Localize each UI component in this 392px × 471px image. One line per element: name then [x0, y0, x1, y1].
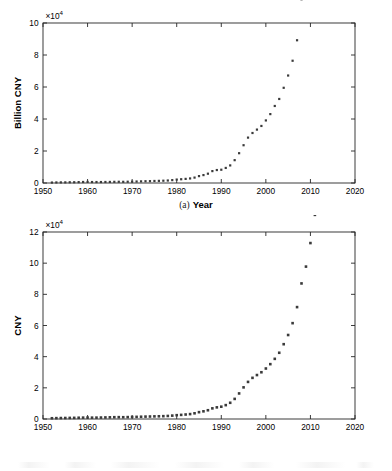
data-point [287, 334, 290, 337]
data-point [256, 374, 259, 377]
y-tick-label: 2 [34, 383, 39, 393]
data-point [229, 164, 231, 166]
data-point [314, 215, 317, 216]
data-point [251, 377, 254, 380]
data-point [256, 129, 258, 131]
data-point [296, 306, 299, 309]
data-point [158, 180, 160, 182]
data-point [109, 416, 112, 419]
figure-page: 195019601970198019902000201020200246810×… [0, 0, 392, 471]
data-point [282, 343, 285, 346]
y-tick-label: 6 [34, 82, 39, 92]
plot-a-wrapper: 195019601970198019902000201020200246810×… [0, 0, 392, 215]
data-point [211, 170, 213, 172]
x-tick-label: 2010 [301, 422, 320, 432]
data-point [180, 414, 183, 417]
data-point [242, 144, 244, 146]
data-point [153, 415, 156, 418]
data-point [109, 181, 111, 183]
data-point [73, 181, 75, 183]
data-point [127, 181, 129, 183]
data-point [265, 367, 268, 370]
data-point [180, 178, 182, 180]
data-point [69, 181, 71, 183]
data-point [77, 416, 80, 419]
x-tick-label: 1970 [123, 422, 142, 432]
page-bottom-artifact [18, 462, 374, 468]
data-point [238, 392, 241, 395]
y-axis-exponent-label: ×104 [46, 218, 64, 229]
plot-box [43, 23, 355, 183]
x-tick-label: 2000 [257, 422, 276, 432]
y-axis-exponent-label: ×104 [46, 9, 64, 20]
panel-a-caption: (a)Year [0, 194, 392, 212]
data-point [171, 414, 174, 417]
data-point [292, 60, 294, 62]
data-point [55, 181, 57, 183]
data-point [82, 416, 85, 419]
data-point [198, 411, 201, 414]
x-tick-label: 1990 [212, 422, 231, 432]
data-point [260, 371, 263, 374]
data-point [278, 98, 280, 100]
data-point [126, 416, 129, 419]
scatter-plot-a: 195019601970198019902000201020200246810×… [0, 0, 392, 215]
y-tick-label: 10 [29, 258, 39, 268]
y-tick-label: 0 [34, 178, 39, 188]
data-point [238, 152, 240, 154]
data-point [269, 363, 272, 366]
x-tick-label: 1980 [167, 422, 186, 432]
data-point [291, 322, 294, 325]
data-point [118, 181, 120, 183]
data-point [274, 105, 276, 107]
data-point [269, 113, 271, 115]
data-point [247, 381, 250, 384]
data-point [158, 415, 161, 418]
data-point [309, 242, 312, 245]
data-point [247, 137, 249, 139]
data-point [51, 181, 53, 183]
data-point [78, 181, 80, 183]
data-point [167, 415, 170, 418]
panel-a-caption-tag: (a) [179, 200, 190, 210]
y-tick-label: 6 [34, 321, 39, 331]
data-point [242, 386, 245, 389]
data-point [162, 415, 165, 418]
data-point [287, 74, 289, 76]
data-point [86, 416, 89, 419]
plot-box [43, 232, 355, 419]
data-point [144, 415, 147, 418]
y-tick-label: 4 [34, 352, 39, 362]
data-point [149, 415, 152, 418]
data-point [86, 181, 88, 183]
data-point [122, 181, 124, 183]
data-point [176, 178, 178, 180]
data-point [278, 351, 281, 354]
data-point [135, 416, 138, 419]
data-point [149, 180, 151, 182]
data-point [229, 401, 232, 404]
data-point [220, 169, 222, 171]
data-point [60, 181, 62, 183]
y-axis-exponent-power: 4 [60, 218, 64, 225]
data-series [51, 215, 339, 420]
scatter-plot-b: 1950196019701980199020002010202002468101… [0, 215, 392, 471]
data-point [220, 405, 223, 408]
y-tick-label: 2 [34, 146, 39, 156]
data-point [175, 414, 178, 417]
y-tick-label: 8 [34, 289, 39, 299]
data-point [113, 416, 116, 419]
y-tick-label: 10 [29, 18, 39, 28]
data-series [51, 0, 338, 184]
y-tick-label: 0 [34, 414, 39, 424]
data-point [296, 39, 298, 41]
data-point [202, 174, 204, 176]
data-point [91, 181, 93, 183]
data-point [211, 407, 214, 410]
data-point [60, 417, 63, 420]
data-point [189, 413, 192, 416]
data-point [225, 167, 227, 169]
data-point [55, 417, 58, 420]
data-point [95, 181, 97, 183]
data-point [184, 413, 187, 416]
